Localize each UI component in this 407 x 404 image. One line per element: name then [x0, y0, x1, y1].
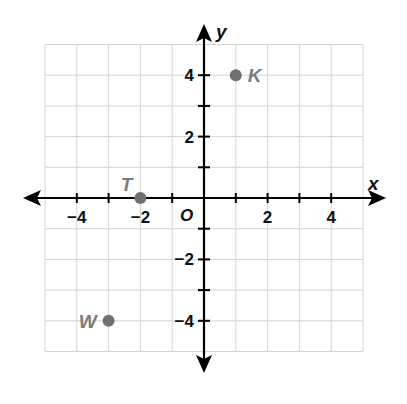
coordinate-plane: −4−22442−2−4 x y O KTW: [0, 0, 407, 404]
y-tick-label: 2: [185, 128, 194, 147]
y-axis-label: y: [215, 21, 228, 42]
point-marker-icon: [230, 69, 242, 81]
x-axis-label: x: [367, 173, 380, 194]
point-label: T: [121, 174, 134, 195]
point-label: W: [79, 311, 99, 332]
x-tick-label: −2: [131, 208, 150, 227]
origin-label: O: [180, 206, 193, 225]
x-tick-label: 4: [326, 208, 336, 227]
point-marker-icon: [103, 315, 115, 327]
point-label: K: [248, 65, 263, 86]
y-tick-label: −4: [175, 312, 195, 331]
y-tick-label: 4: [185, 66, 195, 85]
point-marker-icon: [134, 192, 146, 204]
y-tick-label: −2: [175, 250, 194, 269]
x-tick-label: 2: [263, 208, 272, 227]
point-t: T: [121, 174, 147, 204]
x-tick-label: −4: [67, 208, 87, 227]
